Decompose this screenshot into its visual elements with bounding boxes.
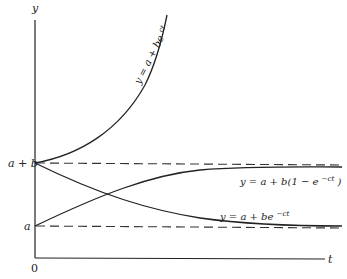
asymptote-upper <box>36 163 342 165</box>
label-decay-exponent: −ct <box>277 210 290 218</box>
label-rise-tail: ) <box>336 176 341 187</box>
tick-label-a-plus-b: a + b <box>8 157 38 170</box>
curve-growth <box>35 15 167 163</box>
label-rise-text: y = a + b(1 − e <box>239 176 318 187</box>
asymptote-lower <box>36 226 342 228</box>
label-rise-to-limit: y = a + b(1 − e −ct ) <box>239 172 341 187</box>
curve-decay <box>35 163 342 226</box>
label-decay: y = a + be −ct <box>219 210 289 222</box>
label-growth: y = a + be ct <box>131 24 171 87</box>
x-axis-label: t <box>328 253 333 266</box>
origin-label: 0 <box>31 262 38 275</box>
y-axis-label: y <box>31 2 39 15</box>
label-decay-text: y = a + be <box>219 211 273 222</box>
label-growth-text: y = a + be <box>132 33 167 87</box>
svg-text:y = a + be ct: y = a + be ct <box>131 24 171 87</box>
x-axis <box>35 258 325 259</box>
label-growth-exponent: ct <box>157 24 167 34</box>
exponential-curves-diagram: y t 0 a + b a y = a + be ct y = a + b(1 … <box>0 0 347 279</box>
tick-label-a: a <box>24 220 31 233</box>
label-rise-exponent: −ct <box>322 175 335 183</box>
